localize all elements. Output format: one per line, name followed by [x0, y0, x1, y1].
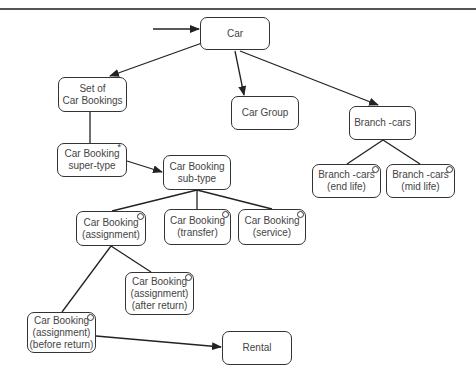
- node-label-line: Car Booking: [244, 215, 299, 227]
- node-label-line: (assignment): [131, 288, 189, 300]
- node-label-line: Car Bookings: [62, 95, 122, 107]
- optional-circle-icon: [297, 211, 304, 218]
- edge-car-car-group: [235, 51, 244, 95]
- node-label-line: (end life): [327, 181, 366, 193]
- edge-branch-mid-life: [383, 140, 420, 164]
- node-car-label: Car: [227, 28, 243, 40]
- edge-sub-service: [197, 190, 272, 209]
- node-car-booking-super-type[interactable]: * Car Booking super-type: [57, 143, 127, 177]
- edge-sub-assignment: [112, 190, 197, 211]
- optional-circle-icon: [185, 274, 192, 281]
- node-branch-cars-end-life[interactable]: Branch -cars (end life): [312, 164, 381, 198]
- node-label-line: sub-type: [178, 173, 216, 185]
- node-label-line: Car Booking: [169, 161, 224, 173]
- node-car-booking-sub-type[interactable]: Car Booking sub-type: [163, 155, 231, 190]
- edge-before-return-rental: [96, 336, 221, 347]
- node-car[interactable]: Car: [200, 17, 270, 50]
- node-label-line: Branch -cars: [354, 117, 411, 129]
- node-label-line: (service): [253, 227, 291, 239]
- node-label-line: Car Booking: [132, 276, 187, 288]
- node-car-booking-after-return[interactable]: Car Booking (assignment) (after return): [125, 272, 194, 315]
- node-label-line: Rental: [243, 342, 272, 354]
- node-label-line: (after return): [132, 300, 188, 312]
- edge-car-set-of-bookings: [110, 43, 202, 76]
- asterisk-marker-icon: *: [117, 141, 121, 153]
- node-branch-cars-mid-life[interactable]: Branch -cars (mid life): [386, 164, 455, 198]
- node-label-line: super-type: [68, 160, 115, 172]
- node-label-line: Set of: [79, 83, 105, 95]
- node-branch-cars[interactable]: Branch -cars: [349, 106, 416, 140]
- node-label-line: Branch -cars: [392, 169, 449, 181]
- node-label-line: Car Booking: [170, 215, 225, 227]
- node-label-line: (assignment): [82, 229, 140, 241]
- optional-circle-icon: [87, 314, 94, 321]
- node-rental[interactable]: Rental: [222, 331, 292, 365]
- node-set-of-car-bookings[interactable]: Set of Car Bookings: [58, 77, 127, 112]
- edge-branch-end-life: [347, 140, 383, 164]
- node-label-line: Car Booking: [34, 315, 89, 327]
- optional-circle-icon: [372, 166, 379, 173]
- node-car-group[interactable]: Car Group: [231, 96, 299, 130]
- node-label-line: Car Booking: [83, 217, 138, 229]
- edge-assignment-after-return: [111, 246, 151, 272]
- node-car-booking-assignment[interactable]: Car Booking (assignment): [76, 211, 146, 246]
- node-label-line: Car Booking: [64, 148, 119, 160]
- node-label-line: (assignment): [33, 327, 91, 339]
- optional-circle-icon: [137, 213, 144, 220]
- node-car-booking-before-return[interactable]: Car Booking (assignment) (before return): [27, 312, 96, 353]
- node-label-line: (before return): [30, 339, 94, 351]
- node-label-line: Branch -cars: [318, 169, 375, 181]
- optional-circle-icon: [446, 166, 453, 173]
- node-label-line: (transfer): [177, 227, 218, 239]
- edge-super-sub-type: [127, 161, 162, 172]
- optional-circle-icon: [222, 211, 229, 218]
- node-label-line: (mid life): [401, 181, 439, 193]
- edge-assignment-before-return: [62, 246, 111, 312]
- node-car-booking-transfer[interactable]: Car Booking (transfer): [164, 209, 231, 245]
- node-label-line: Car Group: [242, 107, 289, 119]
- node-car-booking-service[interactable]: Car Booking (service): [238, 209, 306, 245]
